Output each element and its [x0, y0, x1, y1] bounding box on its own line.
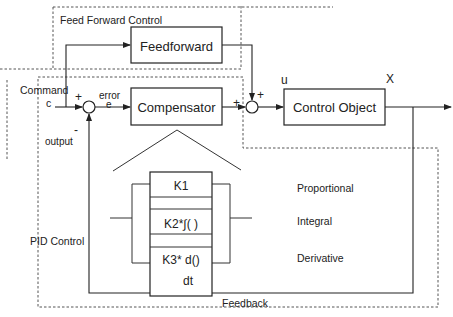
- feedforward-block-label: Feedforward: [140, 39, 213, 54]
- command-symbol: c: [46, 97, 51, 109]
- control-object-block: Control Object: [284, 89, 385, 125]
- control-object-block-label: Control Object: [293, 100, 376, 115]
- pid-detail: K1 K2*∫( ) K3* d() dt: [110, 172, 252, 296]
- output-label: output: [45, 136, 73, 147]
- k1-term: K1: [174, 179, 189, 193]
- feedback-line: [89, 107, 413, 293]
- k3-term-numerator: K3* d(): [162, 253, 199, 267]
- feedforward-block: Feedforward: [131, 27, 222, 63]
- summing-junction-2: [246, 101, 258, 113]
- sum2-plus-top-sign: +: [257, 88, 264, 102]
- command-label: Command: [20, 84, 69, 96]
- compensator-block: Compensator: [131, 88, 222, 125]
- k2-term: K2*∫( ): [164, 217, 198, 231]
- integral-label: Integral: [297, 215, 332, 227]
- sum2-plus-left-sign: +: [233, 96, 240, 110]
- summing-junction-1: [83, 101, 95, 113]
- pid-control-label: PID Control: [30, 235, 84, 247]
- feed-forward-control-label: Feed Forward Control: [60, 14, 162, 26]
- sum1-plus-sign: +: [75, 90, 82, 104]
- compensator-block-label: Compensator: [137, 100, 216, 115]
- feedforward-output-line: [222, 45, 252, 100]
- x-label: X: [386, 72, 394, 86]
- expansion-triangle: [113, 130, 241, 171]
- error-symbol: e: [106, 99, 112, 110]
- k3-term-denominator: dt: [183, 274, 194, 288]
- proportional-label: Proportional: [297, 182, 354, 194]
- u-label: u: [281, 73, 288, 87]
- control-block-diagram: Feed Forward Control PID Control Feedbac…: [0, 0, 453, 317]
- feedback-label: Feedback: [222, 297, 269, 309]
- derivative-label: Derivative: [297, 252, 344, 264]
- sum1-minus-sign: -: [74, 123, 78, 137]
